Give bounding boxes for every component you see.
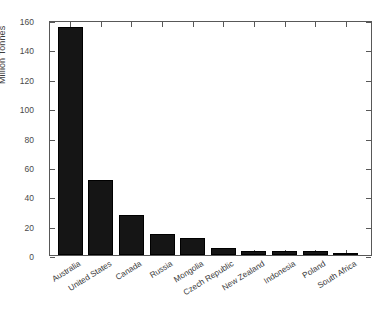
y-tick-mark — [50, 81, 55, 82]
x-tick-mark-top — [101, 22, 102, 27]
bar — [272, 251, 297, 255]
x-tick-mark-top — [223, 22, 224, 27]
y-tick-mark — [50, 257, 55, 258]
bar — [180, 238, 205, 255]
x-tick-mark-top — [131, 22, 132, 27]
x-tick-mark-top — [285, 22, 286, 27]
x-tick-mark-top — [193, 22, 194, 27]
x-tick-mark-top — [162, 22, 163, 27]
y-tick-label: 140 — [4, 47, 34, 56]
x-tick-mark-top — [315, 22, 316, 27]
bar — [119, 215, 144, 255]
x-tick-mark-top — [254, 22, 255, 27]
bar — [58, 27, 83, 255]
y-tick-mark-right — [366, 81, 371, 82]
figure-canvas: Million Tonnes 020406080100120140160 Aus… — [0, 0, 382, 315]
bar — [333, 253, 358, 255]
bar — [150, 234, 175, 255]
y-tick-mark-right — [366, 51, 371, 52]
y-tick-mark-right — [366, 198, 371, 199]
y-tick-mark — [50, 228, 55, 229]
y-tick-mark — [50, 169, 55, 170]
y-tick-mark — [50, 198, 55, 199]
y-tick-label: 0 — [4, 253, 34, 262]
y-tick-label: 20 — [4, 223, 34, 232]
y-tick-label: 60 — [4, 165, 34, 174]
y-tick-mark — [50, 110, 55, 111]
y-tick-mark — [50, 140, 55, 141]
y-tick-mark-right — [366, 22, 371, 23]
bar — [88, 180, 113, 255]
bar — [241, 251, 266, 255]
y-tick-label: 100 — [4, 106, 34, 115]
bar — [211, 248, 236, 255]
plot-area: 020406080100120140160 — [49, 21, 372, 256]
x-tick-mark-top — [346, 22, 347, 27]
bar — [303, 251, 328, 255]
y-tick-mark — [50, 22, 55, 23]
y-tick-mark-right — [366, 257, 371, 258]
y-tick-label: 160 — [4, 18, 34, 27]
y-tick-mark — [50, 51, 55, 52]
y-tick-mark-right — [366, 140, 371, 141]
y-tick-mark-right — [366, 228, 371, 229]
y-tick-mark-right — [366, 110, 371, 111]
x-tick-mark-top — [70, 22, 71, 27]
y-tick-label: 120 — [4, 77, 34, 86]
y-tick-mark-right — [366, 169, 371, 170]
y-tick-label: 80 — [4, 135, 34, 144]
y-tick-label: 40 — [4, 194, 34, 203]
